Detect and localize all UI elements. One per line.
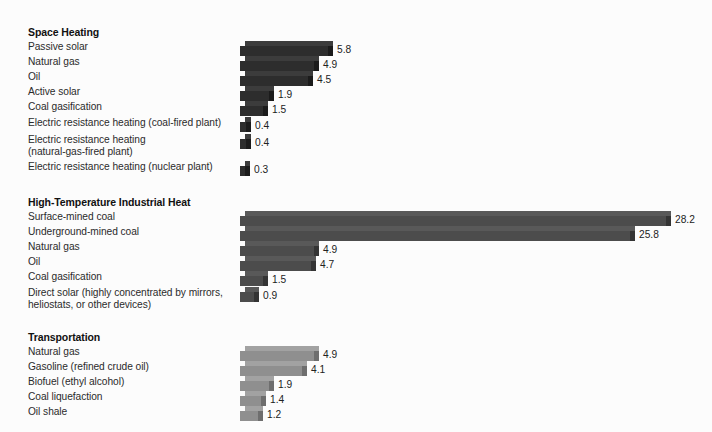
category-label: Natural gas bbox=[28, 346, 80, 358]
bar bbox=[240, 134, 251, 152]
category-label: Electric resistance heating (coal-fired … bbox=[28, 117, 221, 129]
bar-value-label: 5.8 bbox=[337, 44, 351, 55]
category-label: Coal gasification bbox=[28, 271, 102, 283]
category-label: Electric resistance heating (nuclear pla… bbox=[28, 161, 213, 173]
bar-side-face bbox=[630, 231, 635, 241]
bar-top-face bbox=[245, 71, 313, 76]
bar-value-label: 28.2 bbox=[675, 214, 695, 225]
category-label: Oil shale bbox=[28, 406, 67, 418]
bar-value-label: 25.8 bbox=[639, 229, 659, 240]
bar-side-face bbox=[314, 61, 319, 71]
category-label: Surface-mined coal bbox=[28, 211, 115, 223]
category-label: Coal gasification bbox=[28, 101, 102, 113]
chart-row: Electric resistance heating (nuclear pla… bbox=[0, 161, 712, 179]
bar-front-face bbox=[240, 261, 311, 271]
bar-value-label: 0.4 bbox=[255, 137, 269, 148]
bar-value-label: 4.9 bbox=[323, 59, 337, 70]
bar-side-face bbox=[311, 261, 316, 271]
bar bbox=[240, 406, 263, 424]
bar-front-face bbox=[240, 381, 269, 391]
bar-value-label: 4.5 bbox=[317, 74, 331, 85]
bar-front-face bbox=[240, 276, 263, 286]
bar-front-face bbox=[240, 246, 314, 256]
section-title: High-Temperature Industrial Heat bbox=[28, 196, 190, 208]
bar-side-face bbox=[246, 122, 251, 132]
bar-side-face bbox=[314, 246, 319, 256]
bar-side-face bbox=[314, 351, 319, 361]
bar-value-label: 0.3 bbox=[254, 164, 268, 175]
bar-value-label: 1.2 bbox=[267, 409, 281, 420]
bar-front-face bbox=[240, 91, 269, 101]
bar-front-face bbox=[240, 231, 630, 241]
bar-chart: Space HeatingPassive solar5.8Natural gas… bbox=[0, 0, 712, 432]
bar-front-face bbox=[240, 396, 261, 406]
chart-row: Electric resistance heating (natural-gas… bbox=[0, 134, 712, 152]
category-label: Gasoline (refined crude oil) bbox=[28, 361, 149, 373]
section-title: Space Heating bbox=[28, 26, 99, 38]
bar-top-face bbox=[245, 211, 671, 216]
chart-row: Electric resistance heating (coal-fired … bbox=[0, 117, 712, 135]
category-label: Coal liquefaction bbox=[28, 391, 102, 403]
category-label: Underground-mined coal bbox=[28, 226, 139, 238]
bar-top-face bbox=[245, 346, 319, 351]
bar-side-face bbox=[308, 76, 313, 86]
bar-value-label: 4.9 bbox=[323, 349, 337, 360]
category-label: Direct solar (highly concentrated by mir… bbox=[28, 287, 223, 310]
category-label: Active solar bbox=[28, 86, 80, 98]
bar-value-label: 4.7 bbox=[320, 259, 334, 270]
bar-side-face bbox=[328, 46, 333, 56]
bar-value-label: 1.5 bbox=[272, 274, 286, 285]
bar-front-face bbox=[240, 46, 328, 56]
bar-value-label: 1.9 bbox=[278, 379, 292, 390]
bar-front-face bbox=[240, 61, 314, 71]
bar-front-face bbox=[240, 106, 263, 116]
bar-front-face bbox=[240, 411, 258, 421]
bar-side-face bbox=[263, 276, 268, 286]
bar-top-face bbox=[245, 41, 333, 46]
bar-value-label: 0.4 bbox=[255, 120, 269, 131]
bar-front-face bbox=[240, 216, 666, 226]
bar-value-label: 1.9 bbox=[278, 89, 292, 100]
section-title: Transportation bbox=[28, 331, 100, 343]
category-label: Oil bbox=[28, 71, 40, 83]
category-label: Natural gas bbox=[28, 241, 80, 253]
chart-row: Oil shale1.2 bbox=[0, 406, 712, 424]
bar-side-face bbox=[258, 411, 263, 421]
bar-side-face bbox=[666, 216, 671, 226]
category-label: Natural gas bbox=[28, 56, 80, 68]
category-label: Electric resistance heating (natural-gas… bbox=[28, 134, 146, 157]
bar-side-face bbox=[269, 91, 274, 101]
bar bbox=[240, 117, 251, 135]
bar-side-face bbox=[263, 106, 268, 116]
bar bbox=[240, 161, 250, 179]
category-label: Passive solar bbox=[28, 41, 88, 53]
category-label: Oil bbox=[28, 256, 40, 268]
bar-side-face bbox=[254, 292, 259, 302]
bar-front-face bbox=[240, 292, 254, 302]
chart-row: Direct solar (highly concentrated by mir… bbox=[0, 287, 712, 305]
bar-front-face bbox=[240, 76, 308, 86]
bar bbox=[240, 287, 259, 305]
category-label: Biofuel (ethyl alcohol) bbox=[28, 376, 124, 388]
bar-side-face bbox=[245, 166, 250, 176]
bar-front-face bbox=[240, 351, 314, 361]
bar-side-face bbox=[246, 139, 251, 149]
bar-top-face bbox=[245, 241, 319, 246]
bar-side-face bbox=[302, 366, 307, 376]
bar-top-face bbox=[245, 56, 319, 61]
bar-value-label: 1.4 bbox=[270, 394, 284, 405]
bar-side-face bbox=[269, 381, 274, 391]
bar-top-face bbox=[245, 256, 316, 261]
bar-value-label: 4.9 bbox=[323, 244, 337, 255]
bar-value-label: 0.9 bbox=[263, 290, 277, 301]
bar-side-face bbox=[261, 396, 266, 406]
bar-top-face bbox=[245, 226, 635, 231]
bar-front-face bbox=[240, 366, 302, 376]
bar-top-face bbox=[245, 361, 307, 366]
bar-value-label: 1.5 bbox=[272, 104, 286, 115]
bar-value-label: 4.1 bbox=[311, 364, 325, 375]
